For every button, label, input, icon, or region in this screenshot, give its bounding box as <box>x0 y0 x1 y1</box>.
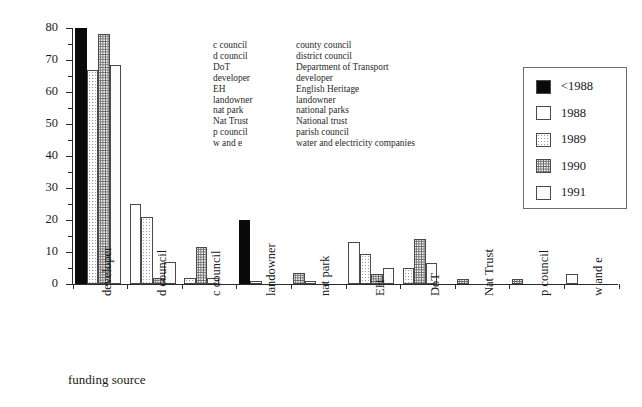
legend-entry: 1991 <box>536 185 586 200</box>
y-tick-mark <box>66 60 72 61</box>
legend-label: <1988 <box>561 79 593 94</box>
group-tick <box>509 284 510 289</box>
category-label: landowner <box>264 243 279 296</box>
legend-swatch <box>536 159 551 173</box>
y-tick-mark-minor <box>68 268 72 269</box>
abbreviation-meaning: developer <box>296 73 333 84</box>
legend-label: 1991 <box>561 185 586 200</box>
abbreviation-row: EHEnglish Heritage <box>213 84 415 95</box>
y-tick-mark-minor <box>68 140 72 141</box>
category-label: d council <box>155 250 170 296</box>
abbreviation-key: d council <box>213 51 296 62</box>
y-tick-mark <box>66 252 72 253</box>
y-tick-mark <box>66 28 72 29</box>
legend-entry: 1989 <box>536 132 586 147</box>
legend-label: 1988 <box>561 106 586 121</box>
abbreviation-row: c councilcounty council <box>213 40 415 51</box>
y-tick-mark-minor <box>68 204 72 205</box>
bar <box>566 274 578 284</box>
y-tick-label: 10 <box>30 245 58 257</box>
bar <box>305 281 317 284</box>
group-tick <box>455 284 456 289</box>
group-tick <box>400 284 401 289</box>
category-label: DoT <box>428 273 443 296</box>
abbreviation-key: w and e <box>213 138 296 149</box>
abbreviation-meaning: district council <box>296 51 352 62</box>
abbreviation-key: DoT <box>213 62 296 73</box>
bar <box>403 268 415 284</box>
abbreviation-key: landowner <box>213 95 296 106</box>
bar <box>512 279 524 284</box>
category-label: developer <box>100 247 115 296</box>
legend-label: 1989 <box>561 132 586 147</box>
abbreviation-row: landownerlandowner <box>213 95 415 106</box>
category-label: w and e <box>591 257 606 296</box>
bar <box>184 278 196 284</box>
group-tick <box>564 284 565 289</box>
y-tick-label: 20 <box>30 213 58 225</box>
group-tick <box>291 284 292 289</box>
y-tick-label: 70 <box>30 53 58 65</box>
legend-swatch <box>536 186 551 200</box>
abbreviation-meaning: county council <box>296 40 351 51</box>
legend-label: 1990 <box>561 159 586 174</box>
y-tick-mark <box>66 188 72 189</box>
bar <box>75 28 87 284</box>
y-tick-label: 80 <box>30 21 58 33</box>
y-tick-mark-minor <box>68 108 72 109</box>
bar <box>293 273 305 284</box>
year-legend: <19881988198919901991 <box>523 67 627 209</box>
group-tick <box>127 284 128 289</box>
abbreviation-row: developerdeveloper <box>213 73 415 84</box>
group-tick <box>73 284 74 289</box>
abbreviation-row: d councildistrict council <box>213 51 415 62</box>
y-tick-label: 0 <box>30 277 58 289</box>
group-tick <box>619 284 620 289</box>
bar <box>196 247 208 284</box>
abbreviation-key: Nat Trust <box>213 116 296 127</box>
legend-swatch <box>536 80 551 94</box>
abbreviation-table: c councilcounty councild councildistrict… <box>213 40 415 149</box>
abbreviation-meaning: National trust <box>296 116 347 127</box>
bar <box>348 242 360 284</box>
abbreviation-key: nat park <box>213 105 296 116</box>
abbreviation-meaning: water and electricity companies <box>296 138 415 149</box>
y-tick-mark-minor <box>68 236 72 237</box>
category-label: p council <box>537 250 552 296</box>
y-axis-line <box>72 28 73 285</box>
bar <box>457 279 469 284</box>
category-label: nat park <box>318 255 333 296</box>
y-tick-mark <box>66 220 72 221</box>
bar-chart: percentage funding source 01020304050607… <box>0 0 642 407</box>
bar <box>414 239 426 284</box>
abbreviation-key: c council <box>213 40 296 51</box>
abbreviation-row: Nat TrustNational trust <box>213 116 415 127</box>
y-tick-mark <box>66 92 72 93</box>
y-tick-label: 50 <box>30 117 58 129</box>
y-tick-mark-minor <box>68 76 72 77</box>
abbreviation-meaning: landowner <box>296 95 336 106</box>
abbreviation-row: DoTDepartment of Transport <box>213 62 415 73</box>
bar <box>141 217 153 284</box>
y-tick-label: 30 <box>30 181 58 193</box>
category-label: EH <box>373 279 388 296</box>
abbreviation-meaning: parish council <box>296 127 349 138</box>
abbreviation-key: EH <box>213 84 296 95</box>
y-tick-mark-minor <box>68 44 72 45</box>
category-label: Nat Trust <box>482 249 497 296</box>
group-tick <box>236 284 237 289</box>
legend-entry: <1988 <box>536 79 593 94</box>
y-tick-mark <box>66 284 72 285</box>
abbreviation-meaning: Department of Transport <box>296 62 389 73</box>
group-tick <box>182 284 183 289</box>
abbreviation-row: nat parknational parks <box>213 105 415 116</box>
y-tick-label: 40 <box>30 149 58 161</box>
x-axis-title: funding source <box>68 372 146 388</box>
abbreviation-key: p council <box>213 127 296 138</box>
legend-entry: 1988 <box>536 106 586 121</box>
bar <box>239 220 251 284</box>
y-tick-label: 60 <box>30 85 58 97</box>
legend-entry: 1990 <box>536 159 586 174</box>
abbreviation-row: w and ewater and electricity companies <box>213 138 415 149</box>
group-tick <box>346 284 347 289</box>
